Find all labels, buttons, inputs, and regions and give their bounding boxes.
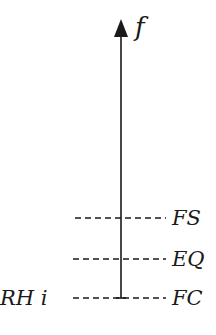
arrowhead-icon (114, 19, 128, 37)
level-label-eq: EQ (172, 249, 205, 270)
level-label-fc: FC (172, 288, 203, 309)
diagram-svg (0, 0, 216, 335)
diagram-canvas: f FS EQ FC RH i (0, 0, 216, 335)
level-label-fs: FS (172, 208, 201, 229)
axis-label-f: f (135, 14, 145, 40)
level-left-label-rh-i: RH i (0, 288, 48, 309)
